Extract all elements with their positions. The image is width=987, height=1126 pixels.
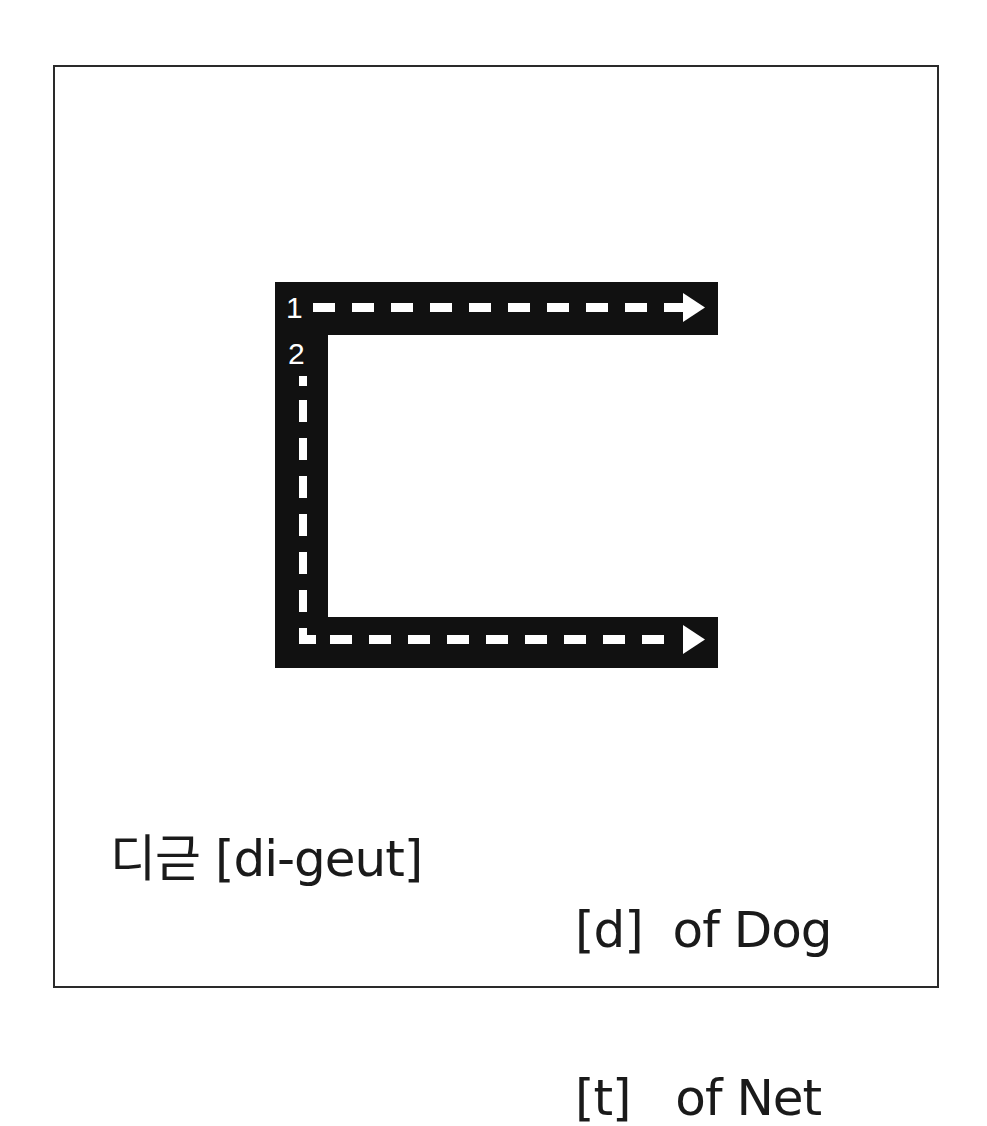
- stroke-number-2: 2: [288, 337, 305, 370]
- sound-examples: [d] of Dog [t] of Net: [575, 790, 831, 1126]
- stroke-number-1: 1: [286, 291, 303, 324]
- phoneme: [d]: [575, 901, 643, 959]
- phoneme: [t]: [575, 1069, 631, 1126]
- stroke-2-guide: [299, 376, 705, 654]
- sound-row-t: [t] of Net: [575, 1070, 831, 1126]
- example-word: of Net: [675, 1069, 821, 1126]
- sound-row-d: [d] of Dog: [575, 902, 831, 958]
- example-word: of Dog: [673, 901, 832, 959]
- letter-shape: [275, 282, 718, 668]
- letter-name: 디귿 [di-geut]: [110, 818, 422, 890]
